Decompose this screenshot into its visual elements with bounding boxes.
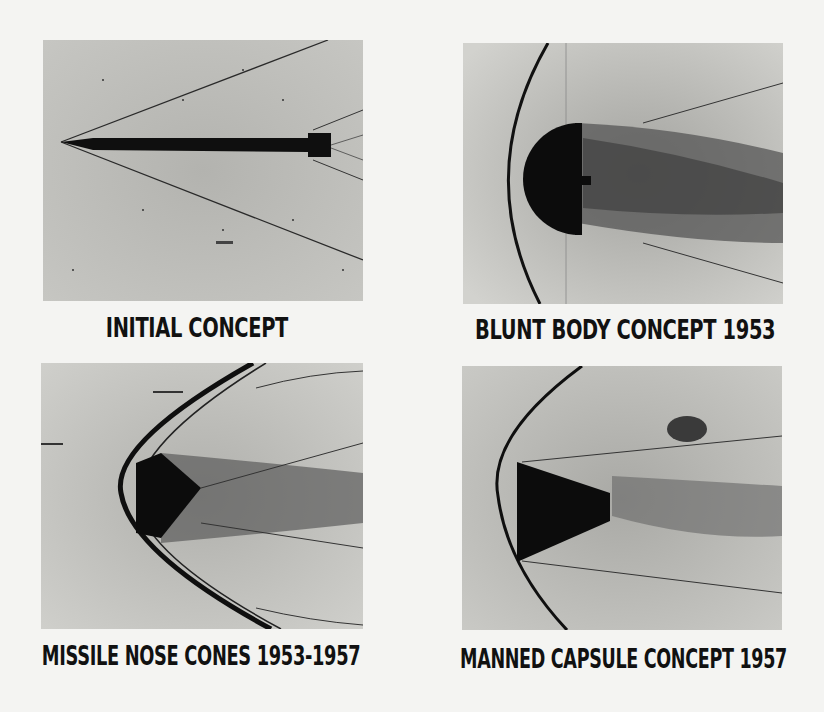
photo-blunt-body-concept [463, 43, 783, 304]
caption-missile-nose-cones: MISSILE NOSE CONES 1953-1957 [41, 640, 361, 671]
shadowgraph-manned-capsule-image [462, 366, 782, 630]
shadowgraph-initial-concept-image [43, 40, 363, 301]
photo-initial-concept [43, 40, 363, 301]
photo-missile-nose-cones [41, 363, 363, 629]
caption-manned-capsule-concept: MANNED CAPSULE CONCEPT 1957 [460, 643, 782, 674]
photo-manned-capsule-concept [462, 366, 782, 630]
caption-initial-concept: INITIAL CONCEPT [95, 312, 299, 343]
shadowgraph-missile-nose-cone-image [41, 363, 363, 629]
caption-blunt-body-concept: BLUNT BODY CONCEPT 1953 [475, 314, 775, 345]
shadowgraph-blunt-body-image [463, 43, 783, 304]
